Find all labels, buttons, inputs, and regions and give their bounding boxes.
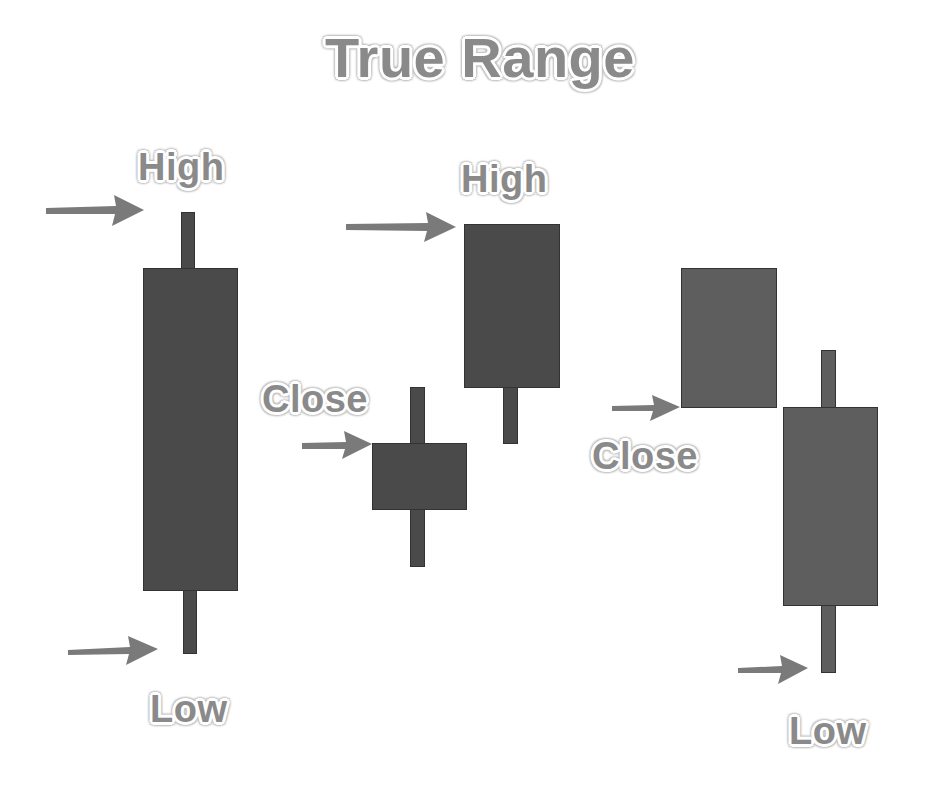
arrow-right-icon xyxy=(612,392,682,424)
candle-2-upper-wick xyxy=(410,387,425,444)
candle-2-body xyxy=(372,443,467,510)
candle-5-body xyxy=(783,407,878,606)
diagram-title: True Range xyxy=(325,30,635,86)
label-low-left: Low xyxy=(150,690,227,728)
candle-1-upper-wick xyxy=(181,212,195,269)
candle-5-lower-wick xyxy=(821,605,836,673)
candle-2-lower-wick xyxy=(410,509,425,567)
candle-1-lower-wick xyxy=(183,590,197,654)
candle-5-upper-wick xyxy=(821,350,836,408)
candle-3-body xyxy=(464,224,560,388)
arrow-right-icon xyxy=(68,633,160,669)
candle-3-lower-wick xyxy=(503,387,518,444)
arrow-right-icon xyxy=(346,210,458,246)
arrow-right-icon xyxy=(738,652,810,686)
candle-1-body xyxy=(143,268,238,591)
label-close-right: Close xyxy=(592,437,698,475)
arrow-right-icon xyxy=(46,192,146,230)
arrow-right-icon xyxy=(302,428,374,462)
label-high-left: High xyxy=(138,148,224,186)
label-high-middle: High xyxy=(461,160,547,198)
label-low-right: Low xyxy=(789,712,866,750)
label-close-middle: Close xyxy=(262,380,368,418)
candle-4-body xyxy=(681,268,777,408)
